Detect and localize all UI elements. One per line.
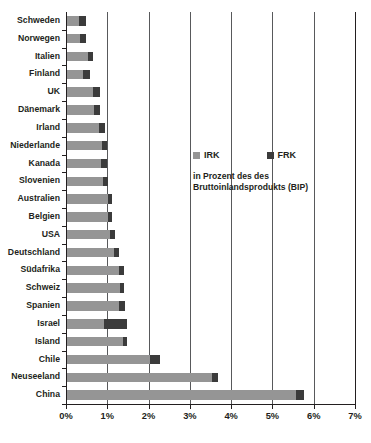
bar-row: Neuseeland [0,368,371,386]
stacked-bar [67,16,86,26]
bar-segment-frk [150,355,160,365]
stacked-bar [67,390,304,400]
bar-segment-irk [67,70,83,80]
bar-segment-irk [67,141,102,151]
x-tick-mark [190,404,191,409]
category-label: Südafrika [0,261,60,279]
stacked-bar [67,159,107,169]
x-tick-label: 4% [211,411,251,421]
bar-row: Spanien [0,297,371,315]
category-label: China [0,386,60,404]
legend-swatch-irk-icon [193,152,200,159]
category-label: Deutschland [0,244,60,262]
bar-segment-frk [123,337,127,347]
category-label: Slovenien [0,172,60,190]
bar-segment-frk [94,105,100,115]
bar-segment-irk [67,159,101,169]
legend-item-irk: IRK [193,150,220,160]
category-label: Finland [0,65,60,83]
bar-segment-irk [67,319,104,329]
stacked-bar [67,301,125,311]
bar-segment-frk [93,87,100,97]
stacked-bar [67,373,218,383]
bar-segment-frk [80,34,86,44]
category-label: Dänemark [0,101,60,119]
bar-row: UK [0,83,371,101]
bar-segment-frk [103,177,108,187]
legend-label-irk: IRK [204,150,220,160]
chart-subtitle: in Prozent des des Bruttoinlandsprodukts… [193,171,338,194]
x-tick-label: 3% [170,411,210,421]
bar-segment-frk [119,266,124,276]
category-label: UK [0,83,60,101]
bar-segment-frk [119,301,125,311]
legend-item-frk: FRK [267,150,297,160]
stacked-bar [67,337,127,347]
stacked-bar [67,70,90,80]
category-label: Irland [0,119,60,137]
bar-segment-irk [67,283,120,293]
bar-segment-frk [83,70,90,80]
bar-segment-irk [67,248,114,258]
y-tick-mark [62,404,66,405]
bar-segment-irk [67,177,103,187]
x-tick-mark [355,404,356,409]
stacked-bar [67,34,86,44]
stacked-bar [67,105,100,115]
category-label: Norwegen [0,30,60,48]
bar-segment-irk [67,355,150,365]
bar-segment-irk [67,194,108,204]
bar-segment-frk [212,373,218,383]
category-label: Kanada [0,155,60,173]
stacked-bar [67,123,105,133]
bar-segment-irk [67,16,79,26]
x-tick-label: 0% [46,411,86,421]
stacked-bar [67,266,124,276]
stacked-bar [67,194,112,204]
stacked-bar [67,141,107,151]
stacked-bar [67,87,100,97]
category-label: USA [0,226,60,244]
bar-segment-irk [67,212,108,222]
bar-row: Israel [0,315,371,333]
chart-subtitle-line-2: Bruttoinlandsprodukts (BIP) [193,182,338,193]
category-label: Island [0,333,60,351]
chart-legend: IRK FRK in Prozent des des Bruttoinlands… [193,150,338,194]
bar-segment-irk [67,123,99,133]
bar-row: Dänemark [0,101,371,119]
stacked-bar [67,355,160,365]
legend-swatch-frk-icon [267,152,274,159]
category-label: Italien [0,48,60,66]
category-label: Schweiz [0,279,60,297]
x-tick-label: 2% [129,411,169,421]
bar-row: Schweiz [0,279,371,297]
category-label: Schweden [0,12,60,30]
bar-segment-irk [67,266,119,276]
bar-row: Norwegen [0,30,371,48]
bar-segment-frk [88,52,93,62]
bar-segment-frk [102,141,107,151]
stacked-bar [67,230,115,240]
x-axis-line [66,404,356,405]
category-label: Neuseeland [0,368,60,386]
x-tick-mark [66,404,67,409]
bar-row: Island [0,333,371,351]
bar-segment-frk [296,390,304,400]
chart-subtitle-line-1: in Prozent des des [193,171,338,182]
x-tick-mark [107,404,108,409]
bar-segment-irk [67,373,212,383]
bar-segment-frk [79,16,85,26]
category-label: Spanien [0,297,60,315]
bar-row: China [0,386,371,404]
bar-row: Finland [0,65,371,83]
bar-segment-irk [67,230,110,240]
bar-row: Irland [0,119,371,137]
bar-segment-frk [104,319,127,329]
bar-segment-irk [67,34,80,44]
bar-segment-irk [67,301,119,311]
category-label: Australien [0,190,60,208]
category-label: Chile [0,351,60,369]
stacked-bar [67,52,93,62]
bar-segment-frk [101,159,108,169]
x-tick-mark [231,404,232,409]
